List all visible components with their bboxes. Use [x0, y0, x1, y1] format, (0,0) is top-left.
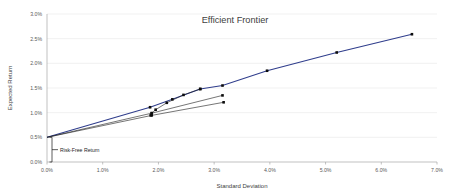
data-point-marker [199, 88, 202, 91]
x-tick-label-7: 7.0% [431, 167, 443, 173]
risk-free-bracket [50, 137, 53, 162]
x-tick-label-2: 2.0% [153, 167, 165, 173]
data-point-marker [222, 101, 225, 104]
data-point-marker [221, 84, 224, 87]
x-tick-label-6: 6.0% [375, 167, 387, 173]
x-tick-label-0: 0.0% [41, 167, 53, 173]
series-line-2 [47, 102, 224, 137]
y-tick-label-5: 2.5% [30, 36, 42, 42]
y-tick-label-6: 3.0% [30, 11, 42, 17]
y-tick-label-3: 1.5% [30, 85, 42, 91]
data-point-marker [411, 33, 414, 36]
risk-free-return-label: Risk-Free Return [60, 147, 100, 153]
y-tick-label-1: 0.5% [30, 134, 42, 140]
y-tick-label-2: 1.0% [30, 110, 42, 116]
x-tick-label-3: 3.0% [208, 167, 220, 173]
data-point-marker [150, 112, 153, 115]
y-tick-label-4: 2.0% [30, 60, 42, 66]
x-axis-title: Standard Deviation [216, 183, 267, 189]
x-tick-label-4: 4.0% [264, 167, 276, 173]
data-point-marker [165, 102, 168, 105]
data-point-marker [266, 69, 269, 72]
y-tick-label-0: 0.0% [30, 159, 42, 165]
series-line-1 [47, 95, 223, 137]
chart-canvas: 0.0%0.5%1.0%1.5%2.0%2.5%3.0%0.0%1.0%2.0%… [0, 0, 459, 193]
chart-title: Efficient Frontier [202, 15, 269, 25]
efficient-frontier-chart: 0.0%0.5%1.0%1.5%2.0%2.5%3.0%0.0%1.0%2.0%… [0, 0, 459, 193]
data-point-marker [154, 108, 157, 111]
data-point-marker [221, 94, 224, 97]
data-point-marker [335, 51, 338, 54]
data-point-marker [149, 114, 152, 117]
x-tick-label-1: 1.0% [97, 167, 109, 173]
data-point-marker [149, 106, 152, 109]
y-axis-title: Expected Return [7, 66, 13, 111]
series-line-0 [47, 34, 412, 137]
x-tick-label-5: 5.0% [320, 167, 332, 173]
data-point-marker [182, 94, 185, 97]
